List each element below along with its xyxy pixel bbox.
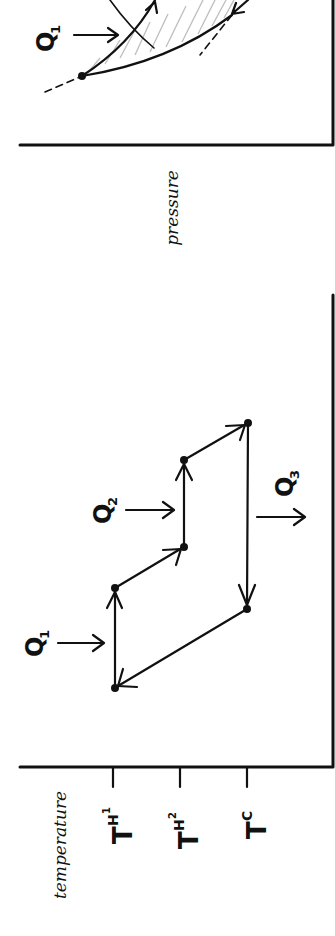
svg-text:C: C bbox=[239, 811, 255, 821]
bottom-plot-axes bbox=[20, 295, 333, 767]
top-q1-label: Q 1 bbox=[32, 25, 63, 52]
svg-text:T: T bbox=[174, 831, 204, 849]
q1-label: Q 1 bbox=[21, 630, 52, 657]
tick-label-th1: T H 1 bbox=[101, 807, 138, 844]
temperature-label-group: temperature bbox=[50, 791, 70, 899]
svg-text:T: T bbox=[242, 821, 272, 839]
dashed-extension-left bbox=[45, 76, 82, 92]
svg-text:2: 2 bbox=[167, 812, 178, 819]
q1-heat-arrow bbox=[58, 635, 104, 651]
cycle-point-e bbox=[244, 419, 252, 427]
temperature-axis-label: temperature bbox=[50, 791, 70, 899]
cycle-point-b bbox=[111, 584, 119, 592]
pressure-axis-label: pressure bbox=[162, 170, 182, 246]
bottom-plot: Q 1 Q 2 Q 3 T H 1 T H 2 T C bbox=[20, 295, 333, 899]
top-right-arrow bbox=[232, 0, 248, 14]
svg-text:1: 1 bbox=[48, 25, 63, 34]
top-plot-x-axis bbox=[20, 0, 333, 145]
q3-label: Q 3 bbox=[271, 470, 302, 497]
top-plot: Q 1 pressure bbox=[20, 0, 333, 246]
svg-text:3: 3 bbox=[287, 470, 302, 479]
svg-text:1: 1 bbox=[37, 630, 52, 639]
q2-label: Q 2 bbox=[89, 497, 120, 524]
cycle-point-a bbox=[111, 684, 119, 692]
tick-label-th2: T H 2 bbox=[167, 812, 204, 849]
cycle-point-f bbox=[243, 605, 251, 613]
isotherm-arc bbox=[110, 0, 154, 48]
thermodynamic-cycle-diagram: Q 1 pressure bbox=[0, 0, 335, 936]
lower-curve bbox=[82, 15, 232, 76]
cycle-point-d bbox=[180, 456, 188, 464]
svg-text:H: H bbox=[171, 819, 187, 831]
segment-d-e bbox=[184, 424, 246, 460]
segment-f-a bbox=[118, 609, 247, 686]
start-point-dot bbox=[78, 72, 86, 80]
svg-text:1: 1 bbox=[101, 807, 112, 814]
segment-e-f bbox=[247, 423, 248, 607]
svg-text:2: 2 bbox=[105, 497, 120, 506]
svg-text:T: T bbox=[108, 826, 138, 844]
q2-heat-arrow bbox=[126, 502, 174, 518]
cycle-point-c bbox=[180, 543, 188, 551]
pressure-label-group: pressure bbox=[162, 170, 182, 246]
svg-text:H: H bbox=[105, 814, 121, 826]
tick-label-tc: T C bbox=[239, 811, 272, 839]
q3-heat-arrow bbox=[257, 509, 305, 525]
top-q1-heat-arrow bbox=[74, 28, 118, 42]
segment-b-c bbox=[115, 548, 182, 588]
